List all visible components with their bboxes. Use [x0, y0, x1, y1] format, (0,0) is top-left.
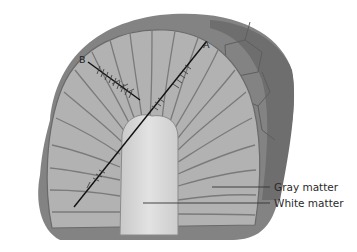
point-b-label: B	[79, 55, 86, 65]
cerebellum-folium-diagram	[0, 0, 357, 252]
point-a-label: A	[203, 40, 210, 50]
white-matter-label: White matter	[274, 198, 344, 209]
gray-matter-label: Gray matter	[274, 182, 338, 193]
